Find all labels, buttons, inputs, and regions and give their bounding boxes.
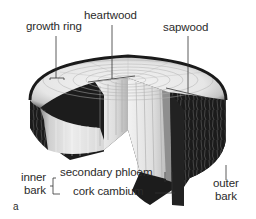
- label-outer-bark-line1: outer: [213, 177, 239, 189]
- label-cork-cambium: cork cambium: [73, 185, 143, 197]
- label-heartwood: heartwood: [84, 9, 137, 21]
- tree-trunk-diagram: growth ring heartwood sapwood inner bark…: [0, 0, 256, 219]
- label-secondary-phloem: secondary phloem: [60, 166, 152, 178]
- panel-letter: a: [13, 201, 18, 213]
- label-sapwood: sapwood: [163, 21, 208, 33]
- label-inner-bark-line2: bark: [24, 184, 46, 196]
- label-inner-bark-line1: inner: [21, 171, 46, 183]
- label-outer-bark-line2: bark: [215, 190, 237, 202]
- label-growth-ring: growth ring: [26, 20, 82, 32]
